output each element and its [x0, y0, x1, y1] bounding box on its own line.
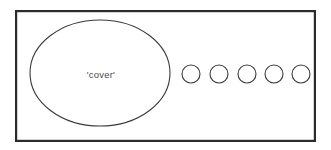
element-circle-5	[292, 65, 310, 83]
element-circle-3	[238, 65, 256, 83]
element-circle-1	[182, 65, 200, 83]
element-circle-2	[210, 65, 228, 83]
element-circle-4	[265, 65, 283, 83]
cover-label: 'cover'	[87, 69, 115, 80]
diagram-canvas: 'cover'	[0, 0, 331, 150]
